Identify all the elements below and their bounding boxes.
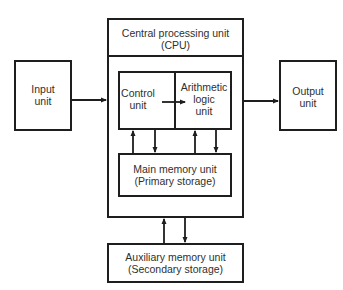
- arrow-layer: [0, 0, 343, 290]
